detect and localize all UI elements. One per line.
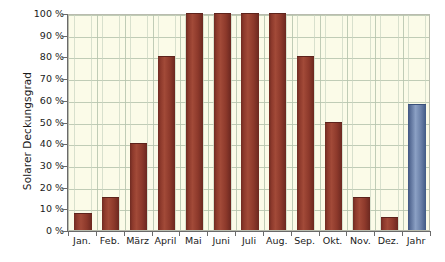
x-axis-tick-mark xyxy=(235,232,236,236)
x-axis-tick-mark xyxy=(430,232,431,236)
x-axis-tick-label: Jahr xyxy=(407,236,426,246)
y-axis-tick-labels: 0 %10 %20 %30 %40 %50 %60 %70 %80 %90 %1… xyxy=(20,8,64,237)
y-axis-tick-mark xyxy=(62,231,67,232)
bar-feb xyxy=(102,197,119,230)
x-axis-tick-mark xyxy=(96,232,97,236)
x-axis-tick-label: Dez. xyxy=(378,236,399,246)
x-axis-line xyxy=(67,231,431,232)
y-axis-tick-mark xyxy=(62,209,67,210)
plot-area xyxy=(68,14,430,231)
x-axis-tick-label: Mai xyxy=(185,236,202,246)
y-axis-tick-label: 100 % xyxy=(20,9,64,19)
y-axis-tick-label: 80 % xyxy=(20,53,64,63)
bars-layer xyxy=(69,15,429,230)
y-axis-tick-mark xyxy=(62,123,67,124)
y-axis-tick-label: 40 % xyxy=(20,139,64,149)
y-axis-tick-mark xyxy=(62,101,67,102)
x-axis-tick-mark xyxy=(346,232,347,236)
y-axis-tick-mark xyxy=(62,79,67,80)
y-axis-tick-label: 70 % xyxy=(20,74,64,84)
y-axis-tick-mark xyxy=(62,188,67,189)
y-axis-tick-label: 10 % xyxy=(20,205,64,215)
x-axis-tick-mark xyxy=(291,232,292,236)
y-axis-tick-mark xyxy=(62,36,67,37)
y-axis-tick-label: 30 % xyxy=(20,161,64,171)
y-axis-tick-mark xyxy=(62,166,67,167)
bar-mai xyxy=(186,13,203,230)
x-axis-tick-label: Feb. xyxy=(100,236,120,246)
x-axis-tick-label: Juli xyxy=(242,236,256,246)
bar-jan xyxy=(74,213,91,230)
bar-nov xyxy=(353,197,370,230)
x-axis-tick-mark xyxy=(374,232,375,236)
y-axis-tick-label: 50 % xyxy=(20,118,64,128)
bar-aug xyxy=(269,13,286,230)
x-axis-tick-label: Jan. xyxy=(73,236,91,246)
bar-sep xyxy=(297,56,314,230)
x-axis-tick-label: April xyxy=(155,236,177,246)
x-axis-tick-label: Aug. xyxy=(266,236,288,246)
x-axis-tick-mark xyxy=(179,232,180,236)
y-axis-tick-label: 0 % xyxy=(20,226,64,236)
bar-juli xyxy=(241,13,258,230)
x-axis-tick-label: Nov. xyxy=(350,236,371,246)
bar-juni xyxy=(214,13,231,230)
bar-april xyxy=(158,56,175,230)
x-axis-tick-mark xyxy=(263,232,264,236)
bar-jahr xyxy=(408,104,425,230)
x-axis-tick-mark xyxy=(207,232,208,236)
bar-okt xyxy=(325,122,342,231)
bar-chart: Solarer Deckungsgrad 0 %10 %20 %30 %40 %… xyxy=(0,0,445,262)
x-axis-tick-label: Sep. xyxy=(294,236,315,246)
bar-märz xyxy=(130,143,147,230)
x-axis-tick-mark xyxy=(68,232,69,236)
x-axis-tick-mark xyxy=(124,232,125,236)
y-axis-tick-label: 20 % xyxy=(20,183,64,193)
bar-dez xyxy=(381,217,398,230)
x-axis-tick-labels: Jan.Feb.MärzAprilMaiJuniJuliAug.Sep.Okt.… xyxy=(68,236,430,256)
x-axis-tick-label: Okt. xyxy=(323,236,343,246)
y-axis-tick-mark xyxy=(62,144,67,145)
x-axis-tick-label: März xyxy=(126,236,149,246)
x-axis-tick-mark xyxy=(402,232,403,236)
x-axis-tick-label: Juni xyxy=(212,236,229,246)
x-axis-tick-mark xyxy=(152,232,153,236)
y-axis-tick-label: 90 % xyxy=(20,31,64,41)
y-axis-tick-mark xyxy=(62,14,67,15)
y-axis-tick-label: 60 % xyxy=(20,96,64,106)
y-axis-tick-mark xyxy=(62,57,67,58)
x-axis-tick-mark xyxy=(319,232,320,236)
